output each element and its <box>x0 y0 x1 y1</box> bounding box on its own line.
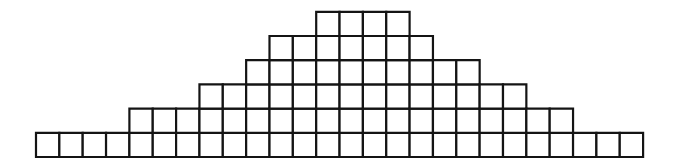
histogram-unit-square <box>410 84 433 108</box>
histogram-unit-square <box>270 36 293 60</box>
histogram-unit-square <box>526 133 549 157</box>
histogram-unit-square <box>36 133 59 157</box>
histogram-unit-square <box>433 109 456 133</box>
histogram-unit-square <box>316 133 339 157</box>
histogram-unit-square <box>106 133 129 157</box>
histogram-unit-square <box>340 60 363 84</box>
histogram-unit-square <box>246 60 269 84</box>
histogram-column <box>526 109 549 157</box>
histogram-unit-square <box>340 109 363 133</box>
histogram-unit-square <box>153 109 176 133</box>
histogram-column <box>270 36 293 157</box>
histogram-unit-square <box>176 133 199 157</box>
histogram-column <box>363 12 386 157</box>
histogram-column <box>386 12 409 157</box>
histogram-cells-layer <box>36 12 643 157</box>
histogram-unit-square <box>293 84 316 108</box>
histogram-column <box>293 36 316 157</box>
histogram-column <box>223 84 246 157</box>
histogram-unit-square <box>59 133 82 157</box>
histogram-unit-square <box>316 84 339 108</box>
histogram-unit-square <box>433 60 456 84</box>
histogram-unit-square <box>293 36 316 60</box>
histogram-column <box>246 60 269 157</box>
histogram-unit-square <box>363 84 386 108</box>
histogram-unit-square <box>199 133 222 157</box>
histogram-unit-square <box>550 133 573 157</box>
histogram-unit-square <box>270 133 293 157</box>
histogram-unit-square <box>386 36 409 60</box>
histogram-unit-square <box>199 84 222 108</box>
histogram-unit-square <box>386 84 409 108</box>
histogram-unit-square <box>456 84 479 108</box>
histogram-unit-square <box>456 60 479 84</box>
histogram-unit-square <box>410 109 433 133</box>
histogram-column <box>316 12 339 157</box>
histogram-unit-square <box>340 84 363 108</box>
histogram-column <box>503 84 526 157</box>
histogram-unit-square <box>480 133 503 157</box>
histogram-unit-square <box>573 133 596 157</box>
histogram-unit-square <box>199 109 222 133</box>
histogram-unit-square <box>503 84 526 108</box>
histogram-unit-square <box>526 109 549 133</box>
histogram-unit-square <box>620 133 643 157</box>
histogram-unit-square <box>246 109 269 133</box>
histogram-column <box>153 109 176 157</box>
histogram-unit-square <box>410 60 433 84</box>
histogram-column <box>596 133 619 157</box>
histogram-unit-square <box>246 84 269 108</box>
histogram-unit-square <box>363 60 386 84</box>
histogram-unit-square <box>293 109 316 133</box>
histogram-column <box>83 133 106 157</box>
histogram-unit-square <box>386 109 409 133</box>
histogram-unit-square <box>316 36 339 60</box>
histogram-unit-square <box>433 84 456 108</box>
histogram-unit-square <box>363 133 386 157</box>
histogram-unit-square <box>293 133 316 157</box>
histogram-column <box>340 12 363 157</box>
histogram-unit-square <box>129 109 152 133</box>
histogram-unit-square <box>503 109 526 133</box>
histogram-column <box>550 109 573 157</box>
histogram-column <box>480 84 503 157</box>
histogram-unit-square <box>316 109 339 133</box>
histogram-unit-square <box>340 12 363 36</box>
histogram-unit-square <box>270 84 293 108</box>
histogram-column <box>456 60 479 157</box>
histogram-unit-square <box>410 133 433 157</box>
histogram-unit-square <box>340 36 363 60</box>
histogram-unit-square <box>503 133 526 157</box>
histogram-unit-square <box>83 133 106 157</box>
histogram-unit-square <box>129 133 152 157</box>
histogram-unit-square <box>363 36 386 60</box>
histogram-unit-square <box>223 109 246 133</box>
histogram-unit-square <box>456 109 479 133</box>
histogram-unit-square <box>340 133 363 157</box>
histogram-unit-square <box>270 60 293 84</box>
histogram-unit-square <box>596 133 619 157</box>
histogram-unit-square <box>386 133 409 157</box>
histogram-column <box>176 109 199 157</box>
histogram-unit-square <box>316 60 339 84</box>
histogram-column <box>620 133 643 157</box>
histogram-unit-square <box>293 60 316 84</box>
histogram-unit-square <box>550 109 573 133</box>
histogram-column <box>410 36 433 157</box>
histogram-column <box>106 133 129 157</box>
histogram-unit-square <box>316 12 339 36</box>
histogram-unit-square <box>386 12 409 36</box>
histogram-column <box>199 84 222 157</box>
histogram-unit-square <box>480 109 503 133</box>
histogram-unit-square <box>433 133 456 157</box>
unit-square-histogram-canvas <box>0 0 676 166</box>
histogram-unit-square <box>363 109 386 133</box>
histogram-column <box>573 133 596 157</box>
histogram-unit-square <box>176 109 199 133</box>
histogram-column <box>59 133 82 157</box>
histogram-unit-square <box>456 133 479 157</box>
histogram-unit-square <box>246 133 269 157</box>
histogram-unit-square <box>410 36 433 60</box>
histogram-unit-square <box>270 109 293 133</box>
histogram-unit-square <box>223 133 246 157</box>
